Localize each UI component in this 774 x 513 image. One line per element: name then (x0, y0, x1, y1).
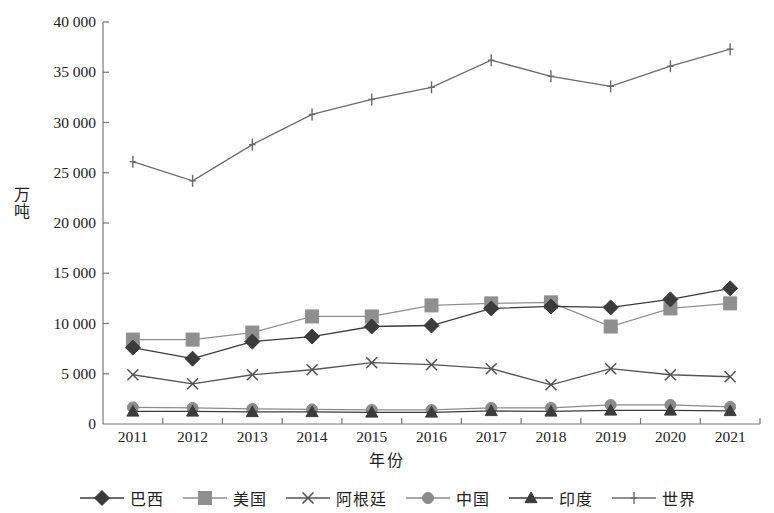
marker-square (425, 299, 438, 312)
marker-square (186, 333, 199, 346)
marker-diamond (185, 351, 200, 366)
legend-marker-diamond-icon (79, 488, 125, 508)
marker-plus (727, 43, 734, 55)
legend-marker-x-icon (285, 488, 331, 508)
series-5 (130, 43, 734, 187)
x-axis-ticks (163, 418, 701, 424)
legend-marker-plus-icon (611, 488, 657, 508)
series-4 (127, 404, 736, 417)
marker-diamond (424, 318, 439, 333)
marker-plus (309, 108, 316, 120)
marker-plus (249, 139, 256, 151)
soybean-production-line-chart: 万吨 年份 05 00010 00015 00020 00025 00030 0… (0, 0, 774, 513)
marker-plus (189, 175, 196, 187)
series-2 (127, 357, 735, 390)
marker-diamond (94, 491, 109, 506)
marker-x (545, 379, 556, 390)
marker-plus (368, 93, 375, 105)
legend-item-阿根廷[interactable]: 阿根廷 (285, 486, 387, 510)
legend-label: 阿根廷 (336, 486, 387, 510)
legend-item-中国[interactable]: 中国 (405, 486, 490, 510)
marker-diamond (603, 300, 618, 315)
legend-label: 美国 (233, 486, 267, 510)
marker-square (306, 310, 319, 323)
marker-square (724, 297, 737, 310)
legend-label: 印度 (559, 486, 593, 510)
marker-plus (428, 81, 435, 93)
legend-item-巴西[interactable]: 巴西 (79, 486, 164, 510)
marker-diamond (305, 329, 320, 344)
legend-label: 巴西 (130, 486, 164, 510)
plot-area (0, 0, 774, 513)
legend-label: 中国 (456, 486, 490, 510)
marker-plus (130, 156, 137, 168)
marker-diamond (723, 281, 738, 296)
marker-plus (667, 60, 674, 72)
legend-label: 世界 (662, 486, 696, 510)
series-0 (125, 281, 737, 366)
marker-plus (488, 54, 495, 66)
legend-item-美国[interactable]: 美国 (182, 486, 267, 510)
marker-circle (422, 493, 433, 504)
legend-marker-square-icon (182, 488, 228, 508)
y-axis-ticks (103, 72, 109, 374)
legend-item-印度[interactable]: 印度 (508, 486, 593, 510)
chart-legend: 巴西美国阿根廷中国印度世界 (0, 484, 774, 512)
legend-marker-triangle-icon (508, 488, 554, 508)
legend-item-世界[interactable]: 世界 (611, 486, 696, 510)
legend-marker-circle-icon (405, 488, 451, 508)
marker-plus (548, 70, 555, 82)
marker-square (604, 320, 617, 333)
marker-plus (607, 80, 614, 92)
marker-square (198, 492, 211, 505)
marker-plus (630, 492, 637, 504)
